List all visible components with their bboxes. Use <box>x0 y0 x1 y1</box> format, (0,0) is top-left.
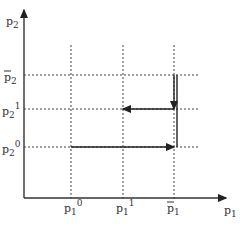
x-label-p1_1: p11 <box>116 198 135 217</box>
y-level-labels: p2p21p20 <box>2 71 21 158</box>
x-label-p1_0: p10 <box>64 198 83 217</box>
adjustment-path <box>71 75 177 147</box>
y-axis-title: p2 <box>6 15 19 30</box>
y-label-p2_1: p21 <box>2 101 21 120</box>
price-adjustment-diagram: p2 p1 p2p21p20 p10p11p1 <box>0 0 240 226</box>
x-axis-title: p1 <box>224 204 237 219</box>
y-label-p2bar: p2 <box>4 71 17 86</box>
guide-lines <box>24 45 198 200</box>
x-label-p1bar: p1 <box>167 202 180 217</box>
x-level-labels: p10p11p1 <box>64 198 180 217</box>
y-label-p2_0: p20 <box>2 139 21 158</box>
